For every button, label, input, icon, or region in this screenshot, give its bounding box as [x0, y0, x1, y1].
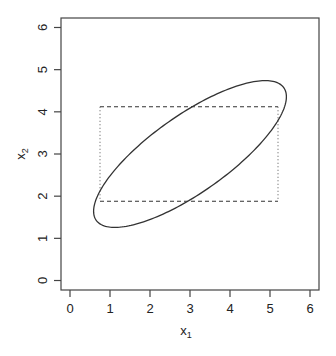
bounding-rectangle	[100, 107, 278, 201]
y-tick-label: 5	[35, 66, 50, 73]
x-tick-label: 0	[66, 301, 73, 316]
y-tick-label: 3	[35, 150, 50, 157]
x-tick-label: 2	[146, 301, 153, 316]
y-tick-label: 0	[35, 277, 50, 284]
y-tick-label: 2	[35, 193, 50, 200]
y-tick-label: 6	[35, 24, 50, 31]
y-axis-label: x2	[13, 148, 30, 160]
plot-frame	[61, 18, 319, 290]
x-tick-label: 5	[266, 301, 273, 316]
x-tick-label: 4	[226, 301, 233, 316]
x-tick-label: 3	[186, 301, 193, 316]
y-axis: 0123456	[35, 24, 61, 284]
y-tick-label: 1	[35, 235, 50, 242]
chart: 0123456 0123456 x1 x2	[0, 0, 336, 356]
x-tick-label: 1	[106, 301, 113, 316]
ellipse	[94, 81, 287, 228]
y-tick-label: 4	[35, 108, 50, 115]
x-tick-label: 6	[306, 301, 313, 316]
x-axis-label: x1	[180, 323, 192, 340]
x-axis: 0123456	[66, 290, 313, 316]
